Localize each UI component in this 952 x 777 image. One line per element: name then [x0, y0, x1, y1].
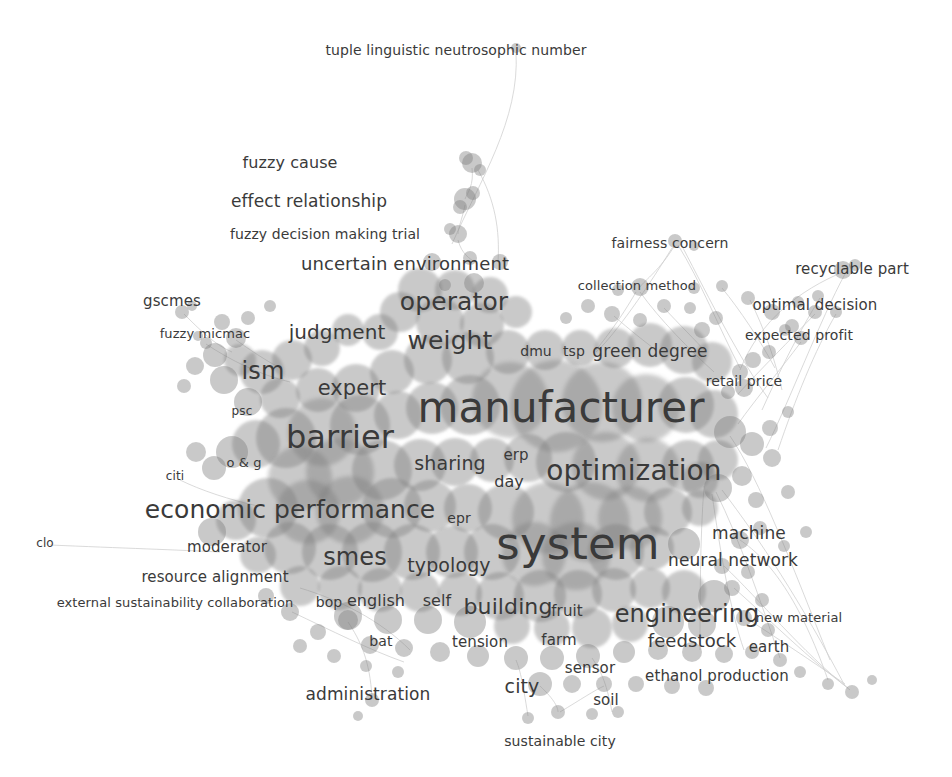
network-node[interactable]	[186, 357, 204, 375]
network-node[interactable]	[563, 675, 581, 693]
network-node[interactable]	[187, 301, 197, 311]
network-node[interactable]	[226, 328, 246, 348]
network-node[interactable]	[732, 466, 752, 486]
network-node[interactable]	[467, 645, 489, 667]
network-node[interactable]	[736, 610, 752, 626]
network-node[interactable]	[612, 606, 648, 642]
network-node[interactable]	[763, 449, 781, 467]
network-node[interactable]	[511, 43, 521, 53]
network-node[interactable]	[731, 531, 749, 549]
network-node[interactable]	[327, 649, 341, 663]
network-node[interactable]	[604, 306, 620, 322]
network-node[interactable]	[459, 151, 473, 165]
network-node[interactable]	[792, 296, 804, 308]
network-node[interactable]	[740, 432, 764, 456]
network-node[interactable]	[500, 296, 532, 328]
network-node[interactable]	[761, 623, 775, 637]
network-node[interactable]	[745, 352, 761, 368]
network-node[interactable]	[716, 280, 728, 292]
network-node[interactable]	[494, 608, 530, 644]
network-node[interactable]	[612, 284, 624, 296]
network-node[interactable]	[534, 610, 570, 646]
network-node[interactable]	[234, 388, 262, 416]
network-node[interactable]	[781, 485, 795, 499]
network-node[interactable]	[682, 462, 718, 498]
network-node[interactable]	[414, 606, 442, 634]
network-node[interactable]	[258, 588, 274, 604]
network-node[interactable]	[613, 641, 635, 663]
network-node[interactable]	[466, 186, 480, 200]
network-node[interactable]	[310, 624, 326, 640]
network-node[interactable]	[177, 379, 191, 393]
network-node[interactable]	[453, 200, 467, 214]
network-node[interactable]	[773, 653, 787, 667]
network-node[interactable]	[808, 305, 822, 319]
network-node[interactable]	[551, 705, 565, 719]
network-node[interactable]	[732, 364, 748, 380]
network-node[interactable]	[572, 608, 612, 648]
network-node[interactable]	[280, 566, 320, 606]
network-node[interactable]	[762, 345, 776, 359]
network-node[interactable]	[586, 708, 598, 720]
network-node[interactable]	[198, 518, 226, 546]
network-node[interactable]	[753, 521, 767, 535]
network-node[interactable]	[800, 526, 812, 538]
network-node[interactable]	[474, 164, 486, 176]
network-node[interactable]	[264, 300, 276, 312]
network-node[interactable]	[392, 666, 404, 678]
network-node[interactable]	[241, 311, 255, 325]
network-node[interactable]	[463, 251, 477, 265]
network-node[interactable]	[454, 606, 486, 638]
network-node[interactable]	[668, 234, 682, 248]
network-node[interactable]	[764, 304, 780, 320]
network-node[interactable]	[748, 492, 764, 508]
network-node[interactable]	[210, 366, 238, 394]
network-node[interactable]	[698, 680, 714, 696]
network-node[interactable]	[812, 290, 824, 302]
network-node[interactable]	[430, 642, 450, 662]
network-node[interactable]	[741, 565, 755, 579]
network-node[interactable]	[193, 331, 203, 341]
network-node[interactable]	[822, 678, 834, 690]
network-node[interactable]	[741, 291, 755, 305]
network-node[interactable]	[762, 420, 778, 436]
network-node[interactable]	[664, 678, 680, 694]
network-node[interactable]	[633, 313, 647, 327]
network-node[interactable]	[400, 572, 440, 612]
network-node[interactable]	[338, 610, 358, 630]
network-map-canvas[interactable]: tuple linguistic neutrosophic numberfuzz…	[0, 0, 952, 777]
network-node[interactable]	[492, 254, 508, 270]
network-node[interactable]	[374, 606, 402, 634]
network-node[interactable]	[631, 278, 649, 296]
network-node[interactable]	[576, 644, 600, 668]
network-node[interactable]	[688, 282, 700, 294]
network-node[interactable]	[362, 314, 398, 350]
network-node[interactable]	[395, 639, 413, 657]
network-node[interactable]	[682, 642, 702, 662]
network-node[interactable]	[849, 259, 861, 271]
network-node[interactable]	[202, 456, 226, 480]
network-node[interactable]	[360, 660, 372, 672]
network-node[interactable]	[612, 706, 624, 718]
network-node[interactable]	[203, 343, 227, 367]
network-node[interactable]	[778, 540, 790, 552]
network-node[interactable]	[692, 342, 732, 382]
network-node[interactable]	[365, 693, 379, 707]
network-node[interactable]	[845, 685, 859, 699]
network-node[interactable]	[358, 568, 402, 612]
network-node[interactable]	[528, 672, 552, 696]
network-node[interactable]	[540, 646, 564, 670]
network-node[interactable]	[715, 645, 733, 663]
network-node[interactable]	[293, 639, 307, 653]
network-node[interactable]	[668, 528, 700, 560]
network-node[interactable]	[794, 666, 806, 678]
network-node[interactable]	[714, 558, 730, 574]
network-node[interactable]	[214, 314, 230, 330]
network-node[interactable]	[657, 299, 671, 313]
network-node[interactable]	[444, 223, 456, 235]
network-node[interactable]	[504, 646, 528, 670]
network-node[interactable]	[782, 406, 794, 418]
network-node[interactable]	[684, 302, 696, 314]
network-node[interactable]	[353, 711, 363, 721]
network-node[interactable]	[648, 640, 668, 660]
